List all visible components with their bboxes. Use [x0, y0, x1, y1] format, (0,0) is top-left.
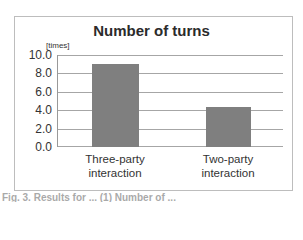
figure-caption: Fig. 3. Results for ... (1) Number of ..…	[2, 192, 176, 202]
x-label-line: interaction	[70, 166, 160, 180]
y-tick-2: 2.0	[14, 123, 52, 135]
x-label-two-party: Two-party interaction	[183, 152, 273, 180]
bar-three-party	[92, 64, 139, 147]
y-tick-8: 8.0	[14, 67, 52, 79]
y-tick-4: 4.0	[14, 104, 52, 116]
x-label-three-party: Three-party interaction	[70, 152, 160, 180]
gridline	[58, 55, 283, 56]
y-tick-10: 10.0	[14, 49, 52, 61]
y-tick-6: 6.0	[14, 86, 52, 98]
x-label-line: Three-party	[70, 152, 160, 166]
chart-title: Number of turns	[0, 22, 303, 39]
y-tick-0: 0.0	[14, 141, 52, 153]
x-label-line: Two-party	[183, 152, 273, 166]
bar-two-party	[206, 107, 251, 147]
plot-area	[57, 55, 283, 147]
x-label-line: interaction	[183, 166, 273, 180]
